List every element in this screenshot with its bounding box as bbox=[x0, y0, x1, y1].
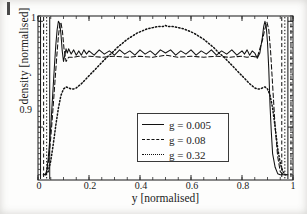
figure-density-profile: density [normalised] y [normalised] 1 0.… bbox=[0, 0, 307, 214]
legend-label-1: g = 0.08 bbox=[169, 134, 205, 146]
plot-canvas bbox=[0, 0, 307, 214]
legend: g = 0.005 g = 0.08 g = 0.32 bbox=[137, 113, 229, 162]
legend-item-1: g = 0.08 bbox=[138, 132, 228, 147]
legend-label-0: g = 0.005 bbox=[169, 119, 211, 131]
legend-item-0: g = 0.005 bbox=[138, 117, 228, 132]
legend-line-sample-solid-icon bbox=[142, 120, 164, 130]
legend-line-sample-dotted-icon bbox=[142, 150, 164, 160]
legend-item-2: g = 0.32 bbox=[138, 147, 228, 162]
legend-line-sample-dashed-icon bbox=[142, 135, 164, 145]
legend-label-2: g = 0.32 bbox=[169, 149, 205, 161]
